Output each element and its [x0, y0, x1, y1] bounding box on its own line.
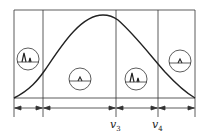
two-peak-spectrum-icon — [125, 68, 147, 90]
bell-curve — [14, 15, 195, 98]
arrow-row — [14, 106, 195, 110]
single-small-peak-icon — [169, 50, 191, 72]
single-small-peak-icon — [69, 68, 91, 90]
two-peak-spectrum-icon — [17, 48, 39, 70]
label-v3: v3 — [110, 118, 121, 133]
diagram: v3 v4 — [0, 0, 205, 137]
label-v4: v4 — [152, 118, 163, 133]
